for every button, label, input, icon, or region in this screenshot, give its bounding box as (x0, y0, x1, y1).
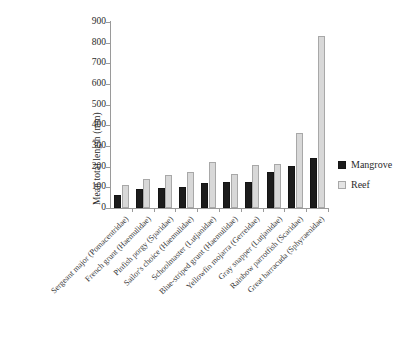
bar-reef[interactable] (165, 175, 172, 208)
bar-group (175, 22, 197, 208)
x-tick-mark (197, 208, 198, 212)
chart-legend: Mangrove Reef (338, 160, 392, 200)
legend-label-reef: Reef (351, 180, 370, 190)
x-tick-mark (132, 208, 133, 212)
x-category-label: Blue-striped grunt (Haemulidae) (158, 215, 239, 296)
bar-group (219, 22, 241, 208)
bar-group (110, 22, 132, 208)
x-category-label: French grunt (Haemulidae) (84, 215, 153, 284)
bar-group (132, 22, 154, 208)
bar-mangrove[interactable] (310, 158, 317, 208)
legend-item-reef[interactable]: Reef (338, 180, 392, 190)
y-tick-label: 700 (92, 59, 106, 69)
bar-reef[interactable] (252, 165, 259, 208)
x-category-label: Yellowfin mojarra (Gerreidae) (185, 215, 261, 291)
bar-mangrove[interactable] (114, 195, 121, 208)
x-tick-mark (219, 208, 220, 212)
chart-figure: Mean total length (mm) 01002003004005006… (0, 0, 420, 349)
plot-area: 0100200300400500600700800900 (110, 22, 328, 208)
bar-reef[interactable] (231, 174, 238, 208)
bar-reef[interactable] (296, 133, 303, 208)
y-tick-label: 400 (92, 121, 106, 131)
x-category-label: Gray snapper (Lutjanidae) (217, 215, 284, 282)
y-tick-label: 800 (92, 38, 106, 48)
y-tick-label: 200 (92, 162, 106, 172)
bar-reef[interactable] (209, 162, 216, 208)
x-tick-mark (175, 208, 176, 212)
bar-mangrove[interactable] (245, 182, 252, 208)
x-category-label: Rainbow parrotfish (Scaridae) (229, 215, 305, 291)
bar-group (241, 22, 263, 208)
bar-mangrove[interactable] (136, 189, 143, 208)
bar-mangrove[interactable] (201, 183, 208, 208)
x-category-label: Sailor's choice (Haemulidae) (123, 215, 196, 288)
reef-swatch-icon (338, 181, 346, 189)
legend-item-mangrove[interactable]: Mangrove (338, 160, 392, 170)
bar-group (197, 22, 219, 208)
bar-group (306, 22, 328, 208)
bar-reef[interactable] (122, 185, 129, 208)
y-tick-label: 100 (92, 183, 106, 193)
x-category-label: Great barracuda (Sphyraenidae) (247, 215, 327, 295)
bar-mangrove[interactable] (158, 188, 165, 208)
bar-reef[interactable] (318, 36, 325, 208)
x-category-label: Pinfish porgy (Sparidae) (112, 215, 175, 278)
x-category-label: Sergeant major (Pomacentridae) (50, 215, 131, 296)
y-tick-label: 300 (92, 141, 106, 151)
x-tick-mark (154, 208, 155, 212)
x-tick-mark (328, 208, 329, 212)
bar-reef[interactable] (143, 179, 150, 208)
bar-group (284, 22, 306, 208)
y-tick-label: 500 (92, 100, 106, 110)
bar-reef[interactable] (274, 164, 281, 208)
mangrove-swatch-icon (338, 161, 346, 169)
bar-group (154, 22, 176, 208)
bar-group (263, 22, 285, 208)
bar-mangrove[interactable] (223, 182, 230, 208)
x-tick-mark (306, 208, 307, 212)
bar-mangrove[interactable] (288, 166, 295, 208)
y-tick-label: 600 (92, 79, 106, 89)
x-category-label: Schoolmaster (Lutjanidae) (151, 215, 218, 282)
y-tick-label: 900 (92, 17, 106, 27)
x-tick-mark (263, 208, 264, 212)
legend-label-mangrove: Mangrove (351, 160, 392, 170)
x-tick-mark (241, 208, 242, 212)
bar-reef[interactable] (187, 172, 194, 208)
bar-mangrove[interactable] (267, 172, 274, 208)
bar-mangrove[interactable] (179, 187, 186, 208)
y-tick-mark (106, 208, 110, 209)
x-tick-mark (284, 208, 285, 212)
